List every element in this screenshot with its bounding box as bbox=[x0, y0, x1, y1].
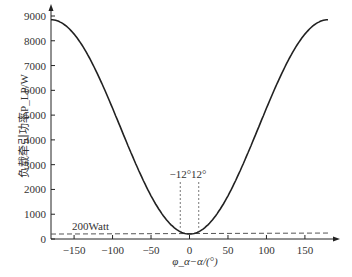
y-tick-label: 9000 bbox=[24, 10, 47, 22]
angle-annotation-label: 12° bbox=[191, 168, 206, 180]
reference-line-label: 200Watt bbox=[72, 220, 109, 232]
chart-canvas: 0100020003000400050006000700080009000 −1… bbox=[0, 0, 352, 277]
y-tick-label: 0 bbox=[41, 233, 47, 245]
axes bbox=[49, 4, 341, 242]
y-axis-label: 负载牵引功率P_LP/W bbox=[15, 51, 31, 201]
y-tick-label: 1000 bbox=[24, 208, 47, 220]
x-tick-label: 150 bbox=[297, 244, 314, 256]
angle-annotations: −12°12° bbox=[169, 168, 206, 228]
x-ticks: −150−100−50050100150 bbox=[63, 235, 314, 256]
reference-line-200watt: 200Watt bbox=[51, 220, 328, 234]
x-axis-label: φ_α−α/(°) bbox=[150, 255, 240, 267]
y-tick-label: 8000 bbox=[24, 35, 47, 47]
x-tick-label: −150 bbox=[63, 244, 86, 256]
x-tick-label: 100 bbox=[258, 244, 275, 256]
power-curve bbox=[51, 20, 328, 234]
x-tick-label: −100 bbox=[101, 244, 124, 256]
angle-annotation-label: −12° bbox=[169, 168, 191, 180]
